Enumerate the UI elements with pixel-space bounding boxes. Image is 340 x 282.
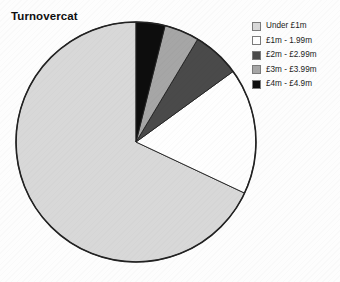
dark-gray-swatch	[252, 51, 261, 60]
legend-item[interactable]: £2m - £2.99m	[252, 48, 317, 62]
legend-item-label: £3m - £3.99m	[266, 66, 317, 74]
chart-title: Turnovercat	[11, 10, 78, 22]
chart-legend: Under £1m £1m - 1.99m £2m - £2.99m £3m -…	[252, 19, 317, 92]
legend-item[interactable]: £3m - £3.99m	[252, 63, 317, 77]
legend-item[interactable]: Under £1m	[252, 19, 317, 33]
legend-item[interactable]: £4m - £4.9m	[252, 77, 317, 91]
legend-item-label: £1m - 1.99m	[266, 37, 312, 45]
legend-item-label: £4m - £4.9m	[266, 80, 312, 88]
pie-slice-group	[16, 22, 256, 262]
legend-item-label: £2m - £2.99m	[266, 51, 317, 59]
light-gray-swatch	[252, 22, 261, 31]
legend-item[interactable]: £1m - 1.99m	[252, 34, 317, 48]
black-swatch	[252, 80, 261, 89]
pie-chart-screenshot: Turnovercat Under £1m £1m - 1.99m £2m - …	[0, 0, 340, 282]
medium-gray-swatch	[252, 65, 261, 74]
legend-item-label: Under £1m	[266, 22, 307, 30]
white-swatch	[252, 36, 261, 45]
